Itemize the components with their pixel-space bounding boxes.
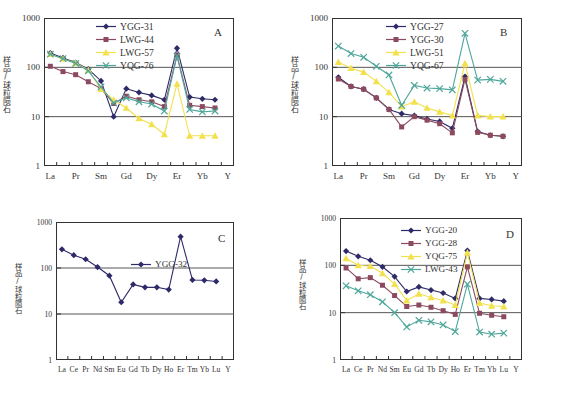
- legend-item-lwg-57[interactable]: LWG-57: [95, 46, 154, 59]
- data-point-lwg-43: [355, 288, 361, 294]
- legend-label: YGG-28: [425, 238, 457, 249]
- legend-item-lwg-51[interactable]: LWG-51: [385, 46, 444, 59]
- x-tick-label: Er: [464, 365, 471, 374]
- x-tick-label: Dy: [146, 171, 157, 181]
- legend-item-ygg-30[interactable]: YGG-30: [385, 33, 444, 46]
- data-point-ygg-20: [489, 296, 495, 302]
- data-point-ygg-20: [440, 290, 446, 296]
- y-tick-label: 10: [26, 310, 52, 319]
- x-tick-label: Er: [461, 171, 470, 181]
- x-tick-label: Tb: [427, 365, 435, 374]
- data-point-ygg-30: [399, 124, 404, 129]
- x-tick-label: Yb: [197, 171, 208, 181]
- data-point-ygg-32: [83, 256, 89, 262]
- data-point-lwg-43: [404, 324, 410, 330]
- data-point-lwg-43: [452, 328, 458, 334]
- data-point-ygg-31: [123, 86, 129, 92]
- series-line-ygg-27: [338, 77, 503, 137]
- data-point-lwg-44: [61, 69, 66, 74]
- legend-panel-a: YGG-31LWG-44LWG-57YQG-76: [95, 20, 154, 72]
- x-tick-label: Er: [177, 365, 184, 374]
- legend-marker-icon: [385, 34, 407, 45]
- y-tick-label: 1: [310, 356, 336, 365]
- x-tick-label: Yb: [200, 365, 209, 374]
- y-axis-label: 样品/球粒陨石: [12, 262, 23, 313]
- legend-item-lwg-44[interactable]: LWG-44: [95, 33, 154, 46]
- data-point-lwg-43: [464, 281, 470, 287]
- y-axis-label: 样品/球粒陨石: [0, 56, 11, 113]
- y-tick-label: 10: [310, 308, 336, 317]
- data-point-lwg-43: [379, 299, 385, 305]
- data-point-ygg-32: [178, 234, 184, 240]
- data-point-ygg-31: [212, 97, 218, 103]
- y-tick-label: 1: [302, 161, 328, 171]
- x-tick-label: Pr: [82, 365, 89, 374]
- legend-label: YQG-67: [410, 60, 444, 71]
- data-point-ygg-32: [166, 286, 172, 292]
- data-point-lwg-51: [461, 60, 468, 66]
- y-tick-label: 1000: [302, 13, 328, 23]
- legend-marker-icon: [95, 21, 117, 32]
- data-point-ygg-30: [488, 133, 493, 138]
- y-tick-label: 100: [14, 62, 40, 72]
- data-point-ygg-28: [356, 276, 361, 281]
- legend-marker-icon: [385, 47, 407, 58]
- legend-label: YGG-20: [425, 225, 457, 236]
- legend-marker-icon: [95, 34, 117, 45]
- data-point-ygg-32: [118, 299, 124, 305]
- panel-letter-a: A: [214, 26, 222, 38]
- x-tick-label: Gd: [121, 171, 132, 181]
- data-point-ygg-32: [130, 281, 136, 287]
- legend-item-ygg-28[interactable]: YGG-28: [400, 237, 457, 250]
- data-point-ygg-31: [136, 89, 142, 95]
- legend-item-yqg-67[interactable]: YQG-67: [385, 59, 444, 72]
- legend-marker-icon: [95, 47, 117, 58]
- y-tick-label: 1: [14, 161, 40, 171]
- data-point-ygg-30: [374, 95, 379, 100]
- legend-item-ygg-31[interactable]: YGG-31: [95, 20, 154, 33]
- data-point-ygg-27: [399, 111, 405, 117]
- x-tick-label: Ce: [70, 365, 78, 374]
- data-point-ygg-30: [361, 87, 366, 92]
- ree-spider-diagram-figure: 1101001000LaPrSmGdDyErYbY样品/球粒陨石AYGG-31L…: [0, 0, 576, 401]
- x-tick-label: Sm: [390, 365, 400, 374]
- data-point-ygg-28: [429, 305, 434, 310]
- data-point-lwg-51: [423, 104, 430, 110]
- legend-panel-d: YGG-20YGG-28YQG-75LWG-43: [400, 224, 457, 276]
- x-tick-label: Tb: [141, 365, 149, 374]
- legend-label: LWG-51: [410, 47, 444, 58]
- data-point-ygg-30: [501, 134, 506, 139]
- data-point-ygg-30: [425, 118, 430, 123]
- legend-label: YGG-32: [155, 259, 187, 270]
- data-point-lwg-51: [474, 112, 481, 118]
- x-tick-label: Dy: [434, 171, 445, 181]
- data-point-lwg-57: [123, 104, 130, 110]
- legend-item-lwg-43[interactable]: LWG-43: [400, 263, 457, 276]
- y-tick-label: 1000: [310, 214, 336, 223]
- data-point-ygg-30: [475, 130, 480, 135]
- legend-panel-b: YGG-27YGG-30LWG-51YQG-67: [385, 20, 444, 72]
- legend-label: LWG-43: [425, 264, 457, 275]
- legend-item-ygg-27[interactable]: YGG-27: [385, 20, 444, 33]
- legend-item-yqg-76[interactable]: YQG-76: [95, 59, 154, 72]
- data-point-lwg-44: [86, 79, 91, 84]
- data-point-ygg-28: [501, 314, 506, 319]
- data-point-ygg-20: [367, 257, 373, 263]
- data-point-ygg-28: [441, 308, 446, 313]
- legend-item-yqg-75[interactable]: YQG-75: [400, 250, 457, 263]
- y-axis-label: 样品/球粒陨石: [288, 56, 299, 113]
- legend-label: YGG-31: [120, 21, 154, 32]
- legend-marker-icon: [400, 225, 422, 236]
- legend-item-ygg-32[interactable]: YGG-32: [130, 258, 187, 271]
- x-tick-label: Sm: [95, 171, 107, 181]
- x-tick-label: Nd: [93, 365, 102, 374]
- data-point-lwg-51: [347, 65, 354, 71]
- data-point-ygg-31: [149, 92, 155, 98]
- data-point-ygg-28: [380, 283, 385, 288]
- legend-panel-c: YGG-32: [130, 258, 187, 271]
- legend-label: LWG-57: [120, 47, 154, 58]
- legend-label: YGG-30: [410, 34, 444, 45]
- legend-item-ygg-20[interactable]: YGG-20: [400, 224, 457, 237]
- data-point-ygg-28: [477, 311, 482, 316]
- panel-letter-d: D: [506, 228, 514, 240]
